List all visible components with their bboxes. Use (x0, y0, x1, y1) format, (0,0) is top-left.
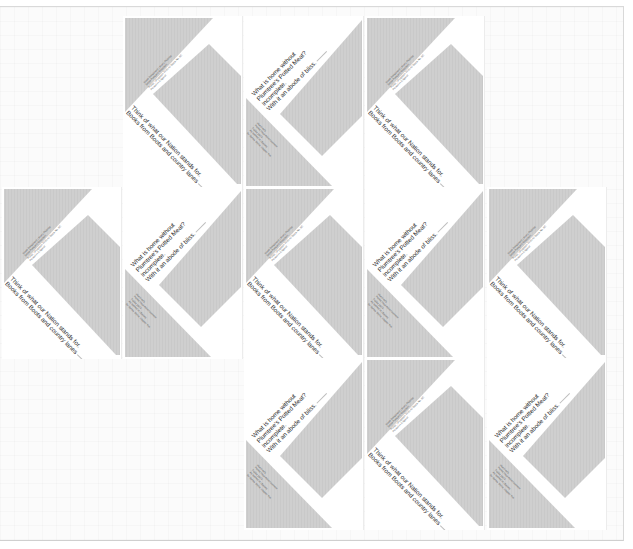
tile-nation-r1c4: Boots Booklovers Library Pictorial Sepia… (365, 16, 485, 188)
tile-plumtree-r3c5: What is home without Plumtree's Potted M… (487, 358, 607, 530)
tile-nation-r1c2: Boots Booklovers Library Pictorial Sepia… (123, 16, 243, 188)
tile-plumtree-r2c2: What is home without Plumtree's Potted M… (123, 187, 243, 359)
tile-nation-r2c5: Boots Booklovers Library Pictorial Sepia… (487, 187, 607, 359)
tile-plumtree-r2c4: What is home without Plumtree's Potted M… (365, 187, 485, 359)
tile-nation-r2c1: Boots Booklovers Library Pictorial Sepia… (2, 187, 122, 359)
tile-nation-r2c3: Boots Booklovers Library Pictorial Sepia… (244, 187, 364, 359)
tile-nation-r3c4: Boots Booklovers Library Pictorial Sepia… (365, 358, 485, 530)
tile-plumtree-r3c3: What is home without Plumtree's Potted M… (244, 358, 364, 530)
tile-plumtree-r1c3: What is home without Plumtree's Potted M… (244, 16, 364, 188)
